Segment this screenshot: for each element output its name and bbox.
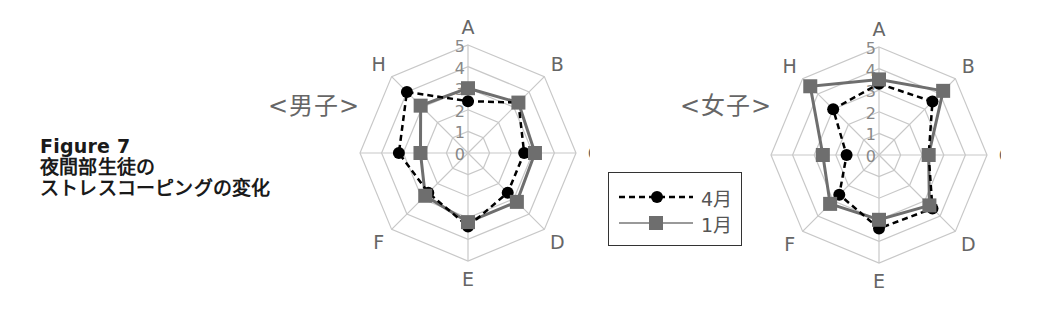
solid-square-marker-icon [617,213,697,233]
male-radar-chart: 012345ABCDEFGH [350,0,590,311]
january-point [922,148,936,162]
january-point [510,195,524,209]
january-point [418,189,432,203]
tick-label: 0 [866,147,876,166]
axis-label-f: F [784,233,795,255]
axis-label-a: A [873,18,886,40]
axis-label-e: E [462,268,474,290]
axis-label-e: E [873,270,885,292]
axis-label-b: B [551,53,564,75]
dashed-circle-marker-icon [617,187,697,207]
chart-legend: 4月 1月 [608,172,742,246]
january-point [413,146,427,160]
female-radar-chart: 012345ABCDEFGH [761,0,1001,311]
axis-label-d: D [961,233,976,255]
male-chart-title: <男子> [268,86,360,121]
axis-label-c: C [588,142,590,164]
april-point [841,149,853,161]
figure-caption: Figure 7 夜間部生徒の ストレスコーピングの変化 [40,136,270,199]
axis-label-d: D [550,231,565,253]
figure-title-line-1: 夜間部生徒の [40,157,270,178]
january-point [872,213,886,227]
january-point [922,198,936,212]
figure-title-line-2: ストレスコーピングの変化 [40,178,270,199]
legend-label-april: 4月 [701,184,732,211]
january-point [461,215,475,229]
january-point [414,99,428,113]
tick-label: 5 [455,37,465,56]
april-point [393,147,405,159]
legend-item-january: 1月 [617,213,737,233]
figure-number: Figure 7 [40,136,270,157]
tick-label: 5 [866,39,876,58]
axis-label-a: A [462,16,475,38]
tick-label: 2 [866,104,876,123]
january-point [803,79,817,93]
axis-label-c: C [999,144,1001,166]
january-point [936,84,950,98]
tick-label: 0 [455,145,465,164]
axis-label-h: H [372,53,386,75]
april-point [462,95,474,107]
tick-label: 4 [455,59,465,78]
january-point [816,148,830,162]
legend-label-january: 1月 [701,210,732,237]
axis-label-f: F [373,231,384,253]
legend-item-april: 4月 [617,187,737,207]
april-point [401,86,413,98]
january-point [823,197,837,211]
axis-label-b: B [962,55,975,77]
january-point [511,96,525,110]
january-point [872,72,886,86]
april-point [827,103,839,115]
january-point [461,81,475,95]
axis-label-h: H [783,55,797,77]
tick-label: 1 [455,123,465,142]
female-chart-title: <女子> [680,86,772,121]
january-point [528,146,542,160]
tick-label: 1 [866,125,876,144]
